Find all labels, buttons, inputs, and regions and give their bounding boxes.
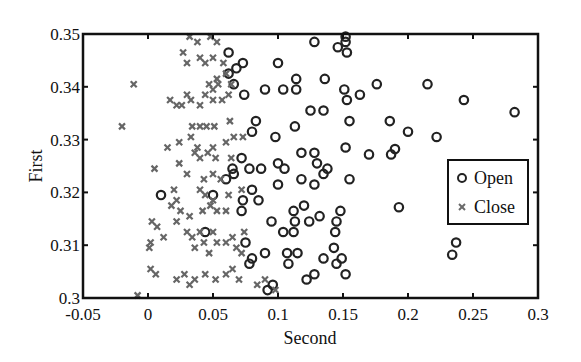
close-point [189, 234, 195, 240]
open-point [395, 203, 403, 211]
open-point [248, 127, 256, 135]
y-tick-label: 0.3 [59, 289, 80, 308]
open-point [284, 259, 292, 267]
open-point [365, 150, 373, 158]
series-close [119, 34, 278, 299]
open-point [330, 244, 338, 252]
close-point [223, 271, 229, 277]
close-point [214, 240, 220, 246]
close-point [230, 234, 236, 240]
close-point [210, 145, 216, 151]
close-point [227, 118, 233, 124]
y-axis-title: First [26, 149, 46, 182]
close-point [174, 277, 180, 283]
open-point [310, 38, 318, 46]
close-point [202, 60, 208, 66]
close-point [219, 97, 225, 103]
open-point [252, 117, 260, 125]
open-point [237, 207, 245, 215]
close-point [167, 97, 173, 103]
close-point [226, 192, 232, 198]
x-tick-label: 0.2 [397, 305, 418, 324]
open-point [343, 96, 351, 104]
open-point [271, 133, 279, 141]
open-point [157, 191, 165, 199]
close-point [220, 60, 226, 66]
x-tick-label: 0.1 [267, 305, 288, 324]
open-point [283, 249, 291, 257]
close-point [148, 240, 154, 246]
close-point [148, 266, 154, 272]
x-axis-title: Second [284, 328, 337, 348]
open-point [292, 75, 300, 83]
y-tick-label: 0.33 [50, 131, 80, 150]
open-point [261, 249, 269, 257]
open-point [373, 80, 381, 88]
close-point [215, 81, 221, 87]
close-point [174, 197, 180, 203]
legend-label-close: Close [474, 197, 515, 217]
open-point [257, 164, 265, 172]
open-point [452, 238, 460, 246]
open-point [510, 108, 518, 116]
open-point [239, 196, 247, 204]
close-point [171, 187, 177, 193]
y-tick-label: 0.32 [50, 183, 80, 202]
close-point [201, 240, 207, 246]
open-point [248, 186, 256, 194]
close-point [226, 92, 232, 98]
open-point [345, 117, 353, 125]
close-point [262, 277, 268, 283]
close-point [204, 123, 210, 129]
open-point [305, 217, 313, 225]
close-point [161, 234, 167, 240]
legend: Open Close [448, 160, 528, 224]
open-point [274, 180, 282, 188]
close-point [188, 134, 194, 140]
close-point [210, 97, 216, 103]
open-point [267, 217, 275, 225]
close-point [254, 282, 260, 288]
open-point [334, 43, 342, 51]
legend-label-open: Open [474, 168, 513, 188]
open-point [261, 85, 269, 93]
open-point [302, 275, 310, 283]
close-point [153, 271, 159, 277]
open-point [289, 207, 297, 215]
open-point [297, 149, 305, 157]
close-point [200, 208, 206, 214]
open-point [291, 122, 299, 130]
close-point [184, 229, 190, 235]
y-tick-label: 0.35 [50, 25, 80, 44]
close-point [202, 92, 208, 98]
close-point [214, 76, 220, 82]
x-tick-label: 0 [144, 305, 153, 324]
open-point [315, 212, 323, 220]
close-point [202, 271, 208, 277]
open-point [230, 170, 238, 178]
close-point [184, 92, 190, 98]
x-tick-label: 0.05 [198, 305, 228, 324]
close-point [223, 208, 229, 214]
y-tick-label: 0.31 [50, 236, 80, 255]
open-point [292, 85, 300, 93]
close-point [176, 139, 182, 145]
open-point [297, 175, 305, 183]
close-point [239, 250, 245, 256]
open-point [245, 164, 253, 172]
open-point [386, 117, 394, 125]
close-point [131, 81, 137, 87]
open-point [345, 175, 353, 183]
close-point [233, 245, 239, 251]
open-point [331, 228, 339, 236]
close-point [184, 60, 190, 66]
open-point [310, 180, 318, 188]
open-point [279, 228, 287, 236]
close-point [181, 271, 187, 277]
open-point [341, 270, 349, 278]
close-point [231, 134, 237, 140]
close-point [210, 229, 216, 235]
open-point [279, 85, 287, 93]
close-point [187, 282, 193, 288]
open-point [237, 154, 245, 162]
